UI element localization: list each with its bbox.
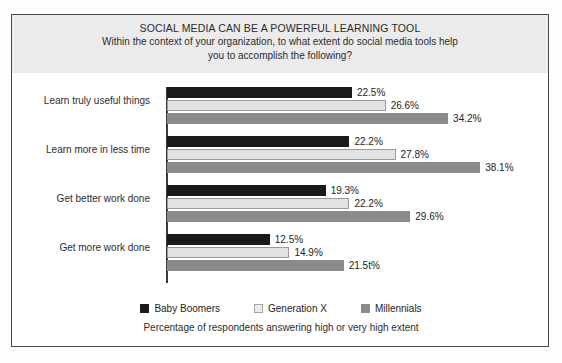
bar-group: Learn truly useful things22.5%26.6%34.2% [12, 81, 549, 130]
bar-value-label: 19.3% [331, 185, 359, 196]
bar-baby-boomers [167, 87, 352, 98]
bar-row: 34.2% [167, 113, 481, 124]
x-axis-caption: Percentage of respondents answering high… [12, 322, 549, 333]
chart-subtitle-line-1: Within the context of your organization,… [12, 35, 548, 49]
legend-item: Baby Boomers [140, 303, 220, 314]
bar-value-label: 22.2% [354, 198, 382, 209]
chart-title: SOCIAL MEDIA CAN BE A POWERFUL LEARNING … [12, 21, 548, 35]
category-label: Get more work done [11, 242, 150, 253]
legend-item: Generation X [254, 303, 327, 314]
bar-row: 38.1% [167, 162, 514, 173]
bar-row: 14.9% [167, 247, 323, 258]
legend-label: Generation X [268, 303, 327, 314]
bar-baby-boomers [167, 136, 349, 147]
bar-millennials [167, 113, 448, 124]
bar-generation-x [167, 247, 289, 258]
chart-subtitle-line-2: you to accomplish the following? [12, 49, 548, 63]
bar-row: 29.6% [167, 211, 444, 222]
bar-generation-x [167, 100, 386, 111]
bar-group: Get better work done19.3%22.2%29.6% [12, 179, 549, 228]
bar-value-label: 27.8% [401, 149, 429, 160]
bar-value-label: 34.2% [453, 113, 481, 124]
category-label: Learn more in less time [11, 144, 150, 155]
bar-value-label: 22.2% [354, 136, 382, 147]
bar-value-label: 22.5% [357, 87, 385, 98]
bar-group: Get more work done12.5%14.9%21.5t% [12, 228, 549, 277]
bar-generation-x [167, 149, 396, 160]
bar-value-label: 38.1% [485, 162, 513, 173]
legend-swatch-icon [361, 304, 370, 313]
legend-swatch-icon [140, 304, 149, 313]
bar-value-label: 21.5t% [349, 260, 380, 271]
chart-title-band: SOCIAL MEDIA CAN BE A POWERFUL LEARNING … [12, 15, 548, 73]
bar-millennials [167, 211, 410, 222]
category-label: Learn truly useful things [11, 95, 150, 106]
legend-swatch-icon [254, 304, 263, 313]
legend-label: Baby Boomers [154, 303, 220, 314]
legend-label: Millennials [375, 303, 422, 314]
bar-row: 26.6% [167, 100, 419, 111]
bar-row: 19.3% [167, 185, 359, 196]
bar-row: 22.5% [167, 87, 385, 98]
scanned-page-background: SOCIAL MEDIA CAN BE A POWERFUL LEARNING … [0, 0, 562, 363]
bar-millennials [167, 260, 344, 271]
legend-item: Millennials [361, 303, 422, 314]
bar-baby-boomers [167, 185, 326, 196]
chart-figure: SOCIAL MEDIA CAN BE A POWERFUL LEARNING … [11, 14, 549, 347]
bar-row: 27.8% [167, 149, 429, 160]
bar-row: 21.5t% [167, 260, 380, 271]
bar-generation-x [167, 198, 349, 209]
bar-group: Learn more in less time22.2%27.8%38.1% [12, 130, 549, 179]
bar-baby-boomers [167, 234, 270, 245]
bar-value-label: 26.6% [391, 100, 419, 111]
bar-value-label: 12.5% [275, 234, 303, 245]
bar-millennials [167, 162, 480, 173]
plot-area: Learn truly useful things22.5%26.6%34.2%… [12, 73, 549, 303]
chart-legend: Baby BoomersGeneration XMillennials [12, 303, 549, 314]
bar-row: 22.2% [167, 198, 383, 209]
bar-value-label: 14.9% [294, 247, 322, 258]
bar-row: 22.2% [167, 136, 383, 147]
category-label: Get better work done [11, 193, 150, 204]
bar-value-label: 29.6% [415, 211, 443, 222]
bar-row: 12.5% [167, 234, 303, 245]
